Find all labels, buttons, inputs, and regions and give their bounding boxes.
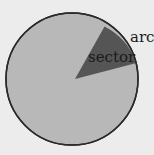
circle-sector-diagram: sector arc [0, 0, 154, 155]
sector-label: sector [88, 48, 136, 66]
arc-label: arc [130, 28, 154, 46]
